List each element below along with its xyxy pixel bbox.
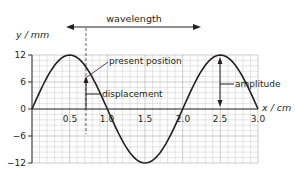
y-tick-neg12: −12 (7, 158, 26, 168)
arrowhead-left-icon (66, 24, 74, 30)
y-tick-neg6: −6 (13, 131, 27, 141)
present-position-label: present position (109, 56, 182, 66)
x-tick-3.0: 3.0 (251, 114, 266, 124)
x-tick-0.5: 0.5 (63, 114, 77, 124)
x-tick-2.5: 2.5 (213, 114, 227, 124)
x-tick-1.5: 1.5 (138, 114, 152, 124)
wavelength-label: wavelength (106, 13, 161, 24)
arrowhead-right-icon (193, 24, 201, 30)
y-tick-12: 12 (15, 50, 26, 60)
y-tick-6: 6 (20, 77, 26, 87)
displacement-label: displacement (102, 89, 163, 99)
y-axis-label: y / mm (15, 29, 49, 40)
arrowhead-up-icon (84, 76, 89, 83)
y-tick-0: 0 (20, 104, 26, 114)
wave-diagram: 12 6 0 −6 −12 0.5 1.0 1.5 2.0 2.5 3.0 y … (0, 0, 295, 180)
present-position-pointer (87, 62, 108, 77)
amplitude-label: amplitude (235, 79, 281, 89)
x-axis-label: x / cm (261, 102, 291, 113)
